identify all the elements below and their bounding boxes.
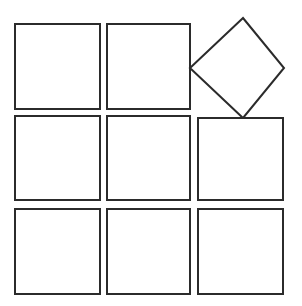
- square-r1c2: [107, 24, 190, 109]
- square-r2c1: [15, 116, 100, 200]
- square-r2c2: [107, 116, 190, 200]
- square-r3c1: [15, 209, 100, 294]
- square-r3c3: [198, 209, 283, 294]
- shape-canvas: [0, 0, 302, 306]
- square-r3c2: [107, 209, 190, 294]
- shape-grid-figure: [0, 0, 302, 306]
- square-r2c3: [198, 118, 283, 200]
- square-r1c1: [15, 24, 100, 109]
